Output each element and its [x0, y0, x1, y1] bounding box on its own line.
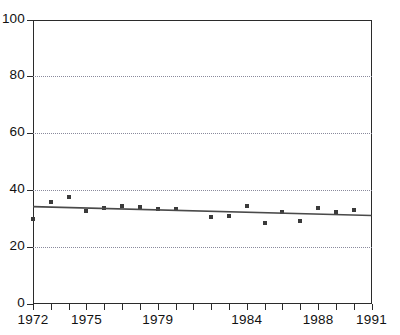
trend-line-layer [0, 0, 400, 335]
trend-line [33, 207, 372, 216]
chart-container: 020406080100 197219751979198419881991 [0, 0, 400, 335]
